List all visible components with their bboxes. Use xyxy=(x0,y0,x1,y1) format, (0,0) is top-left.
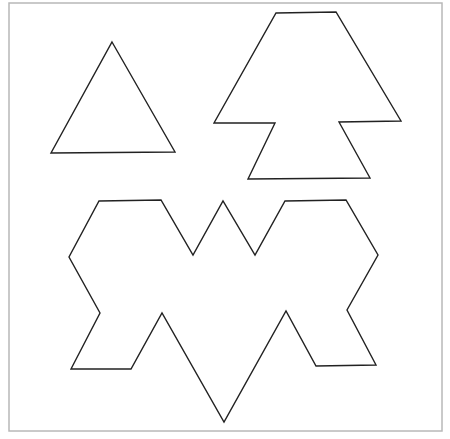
arrow-tree-shape xyxy=(214,12,401,179)
triangle-shape xyxy=(51,42,175,153)
bat-shape xyxy=(69,200,378,422)
diagram-canvas xyxy=(0,0,450,439)
